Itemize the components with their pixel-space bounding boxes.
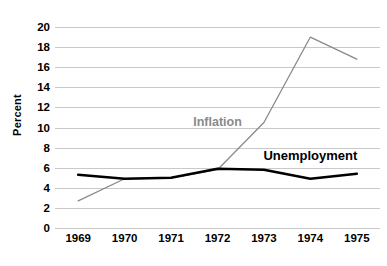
- x-axis-tick-label: 1971: [158, 232, 184, 244]
- y-axis-tick-label: 4: [44, 182, 50, 194]
- plot-area: InflationUnemployment: [55, 27, 380, 228]
- x-axis-tick-label: 1969: [65, 232, 91, 244]
- line-chart: Percent 20181614121086420 InflationUnemp…: [0, 0, 387, 266]
- x-axis-tick-label: 1975: [344, 232, 370, 244]
- series-label-unemployment: Unemployment: [263, 147, 357, 162]
- y-axis-tick-label: 2: [44, 202, 50, 214]
- y-axis-tick-label: 8: [44, 142, 50, 154]
- y-axis-tick-label: 12: [37, 101, 50, 113]
- y-axis-title-label: Percent: [11, 94, 23, 136]
- y-axis-tick-label: 14: [37, 81, 50, 93]
- y-axis-tick-label: 16: [37, 61, 50, 73]
- x-axis-tick-label: 1972: [205, 232, 231, 244]
- x-axis-tick-labels: 1969197019711972197319741975: [55, 232, 380, 254]
- y-axis-tick-label: 20: [37, 21, 50, 33]
- series-label-inflation: Inflation: [193, 115, 242, 129]
- x-axis-tick-label: 1973: [251, 232, 277, 244]
- y-axis-tick-label: 0: [44, 222, 50, 234]
- y-axis-tick-label: 6: [44, 162, 50, 174]
- gridline: [55, 228, 380, 229]
- y-axis-tick-labels: 20181614121086420: [24, 0, 50, 266]
- y-axis-tick-label: 10: [37, 122, 50, 134]
- y-axis-tick-label: 18: [37, 41, 50, 53]
- x-axis-tick-label: 1970: [112, 232, 138, 244]
- x-axis-tick-label: 1974: [298, 232, 324, 244]
